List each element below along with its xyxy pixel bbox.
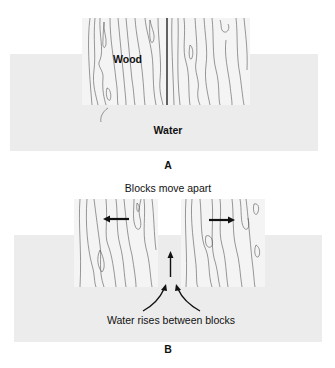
panel-b-title: Blocks move apart [125,182,211,194]
panel-label-a: A [164,159,172,171]
panel-label-b: B [164,343,172,355]
wood-label: Wood [113,53,142,65]
water-label: Water [154,124,183,136]
panel-b-caption: Water rises between blocks [107,314,235,326]
wood-block-a-right [167,18,250,105]
